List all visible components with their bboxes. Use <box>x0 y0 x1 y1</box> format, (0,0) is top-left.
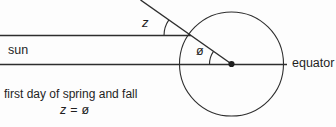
equation-equals-sign: = <box>70 104 77 117</box>
equation-lhs: z <box>60 104 66 117</box>
equator-label: equator <box>292 57 334 70</box>
z-angle-arc <box>164 20 169 36</box>
equinox-sun-angle-diagram: sun z ø equator first day of spring and … <box>0 0 336 127</box>
equation-text: z = ø <box>60 104 89 117</box>
earth-center-dot <box>228 61 234 67</box>
diagram-canvas <box>0 0 336 127</box>
equation-rhs: ø <box>82 104 90 117</box>
sun-label: sun <box>8 44 28 57</box>
phi-angle-arc <box>209 51 213 64</box>
zenith-angle-label: z <box>142 16 149 29</box>
caption-text: first day of spring and fall <box>4 88 137 100</box>
zenith-line <box>141 0 232 64</box>
latitude-angle-label: ø <box>196 45 204 58</box>
